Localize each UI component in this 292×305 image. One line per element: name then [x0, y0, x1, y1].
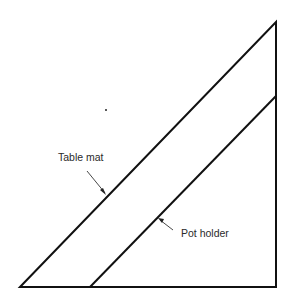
- diagram-canvas: Table mat Pot holder: [0, 0, 292, 305]
- pot-holder-label: Pot holder: [181, 228, 229, 239]
- triangle-layout-drawing: [0, 0, 292, 305]
- table-mat-label: Table mat: [58, 152, 104, 163]
- stray-dot: [105, 109, 107, 111]
- table-mat-arrowhead-icon: [100, 188, 106, 195]
- inner-cut-line: [90, 96, 276, 287]
